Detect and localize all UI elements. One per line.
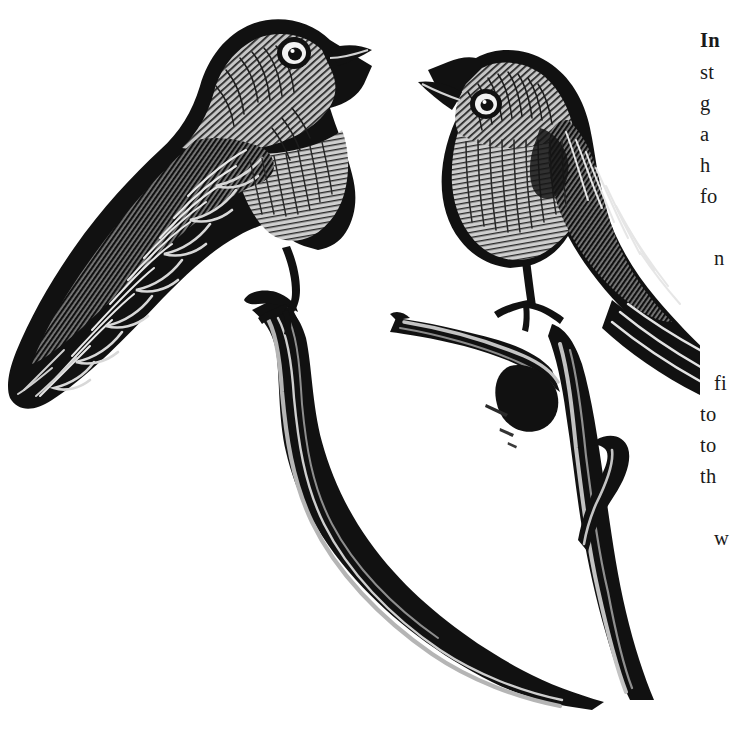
left-bird-eye <box>277 37 311 69</box>
right-bird-eye <box>470 89 502 119</box>
text-line-12: w <box>714 528 729 548</box>
forked-branch <box>244 290 654 710</box>
branch-ink-fleck-3 <box>508 442 518 449</box>
text-line-3: g <box>700 93 710 113</box>
text-line-5: h <box>700 155 710 175</box>
text-line-1: In <box>700 30 720 50</box>
branch-upper-limb-tip <box>390 312 410 320</box>
body-text-column: In st g a h fo n fi to to th w <box>700 0 749 748</box>
engraving-canvas <box>0 0 700 748</box>
book-page: In st g a h fo n fi to to th w <box>0 0 749 748</box>
left-bird <box>8 19 372 409</box>
right-bird-leg <box>522 260 536 306</box>
text-line-7: n <box>714 248 724 268</box>
text-line-8: fi <box>714 373 727 393</box>
branch-ink-fleck-2 <box>500 428 515 437</box>
text-line-2: st <box>700 62 714 82</box>
text-line-10: to <box>700 435 716 455</box>
text-line-9: to <box>700 404 716 424</box>
text-line-11: th <box>700 466 716 486</box>
text-line-6: fo <box>700 186 717 206</box>
text-line-4: a <box>700 124 709 144</box>
bird-engraving-illustration <box>0 0 700 748</box>
